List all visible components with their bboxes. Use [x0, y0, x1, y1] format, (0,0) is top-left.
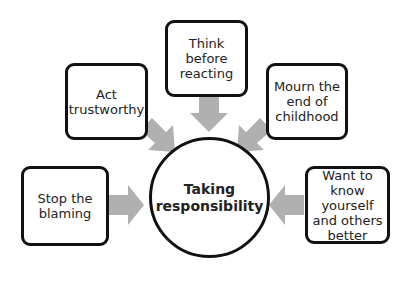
node-stop-the-blaming: Stop the blaming [21, 166, 109, 246]
arrow-stop-to-center [109, 185, 144, 225]
node-mourn-the-end-of-childhood: Mourn the end of childhood [266, 63, 348, 140]
node-label: Want to know yourself and others better [310, 168, 385, 243]
node-label: Act trustworthy [69, 87, 145, 117]
center-node-taking-responsibility: Taking responsibility [149, 137, 270, 258]
node-label: Mourn the end of childhood [271, 79, 343, 124]
node-want-to-know: Want to know yourself and others better [305, 166, 390, 244]
arrow-think-to-center [190, 96, 228, 132]
arrow-want-to-center [269, 185, 304, 225]
center-label: Taking responsibility [152, 181, 267, 215]
node-label: Think before reacting [170, 36, 243, 81]
node-think-before-reacting: Think before reacting [165, 20, 248, 97]
node-act-trustworthy: Act trustworthy [65, 63, 148, 140]
node-label: Stop the blaming [26, 191, 104, 221]
